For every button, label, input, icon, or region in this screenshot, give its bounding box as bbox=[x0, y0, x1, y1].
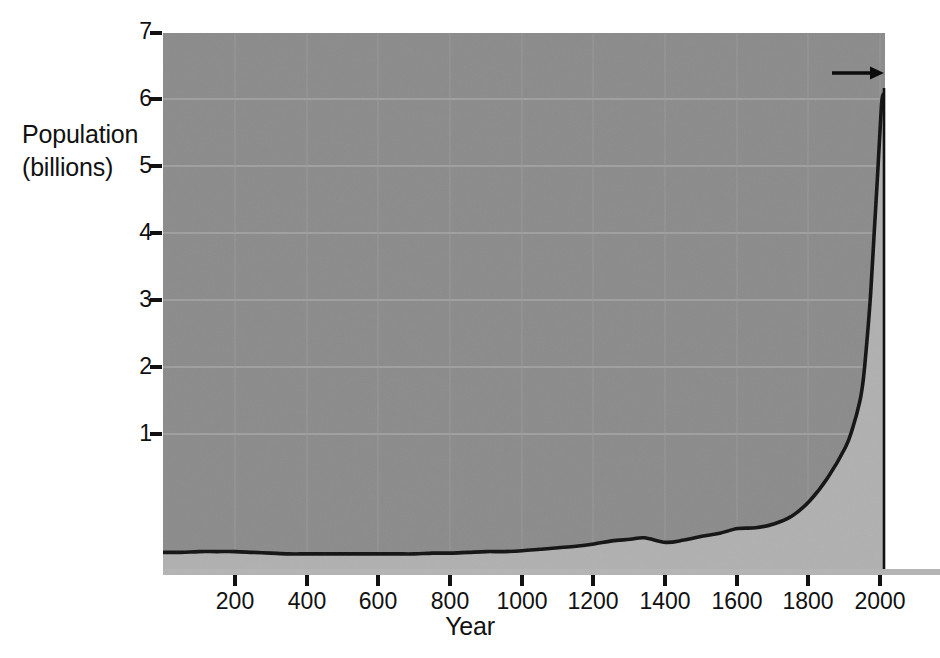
population-chart-figure: Population (billions) 7 6 5 4 3 2 1 200 … bbox=[0, 0, 940, 658]
paper-texture-overlay bbox=[163, 33, 885, 570]
x-tick-marks bbox=[235, 575, 880, 586]
plot-area bbox=[0, 0, 940, 658]
y-tick-marks bbox=[150, 33, 162, 434]
